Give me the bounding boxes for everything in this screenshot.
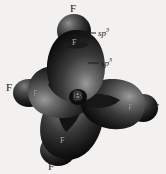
callout-sp-text-upper: sp	[98, 28, 106, 38]
callout-sp-sup-lower: 3	[109, 57, 112, 63]
callout-sp-sup-upper: 3	[106, 27, 109, 33]
label-boron-center: B	[74, 90, 81, 101]
label-inner-fluorine-top: F	[72, 39, 76, 47]
label-inner-fluorine-right: F	[128, 104, 132, 112]
label-fluorine-left: F	[6, 82, 12, 93]
orbital-diagram	[0, 0, 166, 174]
label-fluorine-top: F	[70, 3, 76, 14]
label-inner-fluorine-bottom: F	[60, 137, 64, 145]
label-inner-fluorine-left: F	[33, 90, 37, 98]
label-fluorine-right: F	[153, 102, 159, 113]
callout-label-sp3-upper: sp3	[98, 27, 109, 38]
callout-label-sp3-lower: sp3	[101, 57, 112, 68]
label-fluorine-bottom: F	[48, 161, 54, 172]
callout-sp-text-lower: sp	[101, 58, 109, 68]
